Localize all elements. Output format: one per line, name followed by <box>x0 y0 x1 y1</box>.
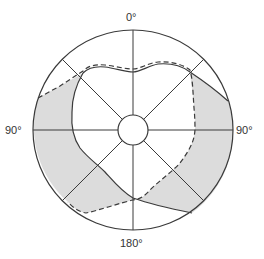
label-top-0deg: 0° <box>126 12 137 23</box>
inner-circle <box>118 115 148 145</box>
label-left-90deg: 90° <box>5 125 22 136</box>
label-bottom-180deg: 180° <box>120 238 143 249</box>
label-right-90deg: 90° <box>236 125 253 136</box>
polar-diagram <box>0 0 264 259</box>
shaded-region-left <box>34 73 133 213</box>
